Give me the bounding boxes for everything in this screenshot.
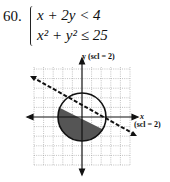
graph [0,0,170,182]
y-axis-label: y (scl = 2) [82,52,115,61]
x-scale-label: (scl = 2) [134,120,161,129]
